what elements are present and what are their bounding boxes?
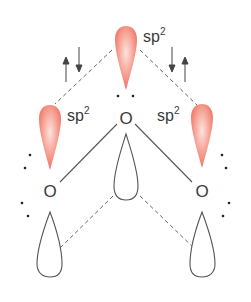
dashed-line-bottom-right (140, 196, 196, 250)
sp2-lobe-left (39, 105, 61, 170)
atom-right-o: O (195, 182, 208, 201)
arrow-up-icon (182, 57, 188, 64)
atom-center-o: O (119, 109, 132, 128)
sp2-lobe-right (191, 104, 213, 168)
spin-arrows-left (63, 47, 82, 82)
arrow-up-icon (63, 57, 69, 64)
arrow-down-icon (169, 65, 175, 72)
sp2-lobe-top (115, 26, 137, 90)
ozone-orbital-diagram: O O O sp2 sp2 sp2 (0, 0, 251, 302)
arrow-down-icon (76, 65, 82, 72)
p-lobe-right (190, 212, 215, 277)
bond-left (60, 124, 117, 182)
dashed-line-top-right (140, 50, 198, 106)
label-sp2-left: sp2 (67, 105, 90, 124)
atom-left-o: O (43, 182, 56, 201)
p-lobe-left (37, 212, 62, 277)
bond-right (135, 124, 192, 182)
label-sp2-top: sp2 (143, 26, 166, 45)
dashed-line-top-left (55, 50, 112, 104)
label-sp2-right: sp2 (157, 105, 180, 124)
spin-arrows-right (169, 47, 188, 82)
p-lobe-center (114, 134, 138, 200)
dashed-line-bottom-left (58, 196, 113, 250)
